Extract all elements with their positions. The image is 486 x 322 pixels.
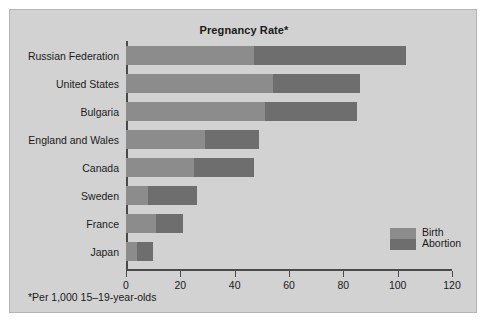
bar-segment-birth bbox=[126, 158, 194, 177]
x-tick-120 bbox=[452, 271, 453, 277]
category-label: France bbox=[86, 218, 119, 230]
bar-row: United States bbox=[126, 74, 452, 93]
bar-segment-birth bbox=[126, 74, 273, 93]
x-tick-60 bbox=[289, 271, 290, 277]
plot-area: 020406080100120 Russian FederationUnited… bbox=[126, 41, 468, 269]
x-tick-label-40: 40 bbox=[229, 279, 241, 291]
bar-segment-abortion bbox=[156, 214, 183, 233]
bar-segment-abortion bbox=[194, 158, 254, 177]
bar-segment-abortion bbox=[273, 74, 360, 93]
category-label: Bulgaria bbox=[80, 106, 119, 118]
x-tick-40 bbox=[235, 271, 236, 277]
category-label: Sweden bbox=[81, 190, 119, 202]
chart-legend: Birth Abortion bbox=[390, 228, 485, 250]
legend-swatch-abortion bbox=[390, 239, 416, 250]
x-tick-label-80: 80 bbox=[337, 279, 349, 291]
bar-segment-abortion bbox=[254, 46, 406, 65]
x-tick-label-100: 100 bbox=[389, 279, 407, 291]
x-tick-20 bbox=[180, 271, 181, 277]
x-tick-100 bbox=[398, 271, 399, 277]
bar-segment-birth bbox=[126, 186, 148, 205]
x-tick-label-60: 60 bbox=[283, 279, 295, 291]
x-tick-80 bbox=[343, 271, 344, 277]
category-label: Canada bbox=[82, 162, 119, 174]
bar-segment-birth bbox=[126, 214, 156, 233]
legend-swatch-birth bbox=[390, 228, 416, 239]
bar-segment-abortion bbox=[148, 186, 197, 205]
x-tick-label-0: 0 bbox=[123, 279, 129, 291]
bar-row: Canada bbox=[126, 158, 452, 177]
bar-segment-abortion bbox=[265, 102, 357, 121]
bar-row: England and Wales bbox=[126, 130, 452, 149]
bar-segment-abortion bbox=[205, 130, 259, 149]
chart-screenshot: Pregnancy Rate* 020406080100120 Russian … bbox=[0, 0, 486, 322]
category-label: Russian Federation bbox=[28, 50, 119, 62]
bar-row: Bulgaria bbox=[126, 102, 452, 121]
bar-row: Russian Federation bbox=[126, 46, 452, 65]
bar-segment-birth bbox=[126, 130, 205, 149]
x-tick-label-120: 120 bbox=[443, 279, 461, 291]
chart-footnote: *Per 1,000 15–19-year-olds bbox=[28, 291, 156, 303]
x-tick-label-20: 20 bbox=[174, 279, 186, 291]
bar-segment-birth bbox=[126, 102, 265, 121]
chart-title: Pregnancy Rate* bbox=[10, 24, 478, 36]
chart-panel: Pregnancy Rate* 020406080100120 Russian … bbox=[9, 9, 477, 313]
bar-segment-abortion bbox=[137, 242, 153, 261]
category-label: United States bbox=[56, 78, 119, 90]
bar-segment-birth bbox=[126, 46, 254, 65]
bar-segment-birth bbox=[126, 242, 137, 261]
x-tick-0 bbox=[126, 271, 127, 277]
legend-label-abortion: Abortion bbox=[422, 237, 461, 249]
category-label: Japan bbox=[90, 246, 119, 258]
bar-row: Sweden bbox=[126, 186, 452, 205]
category-label: England and Wales bbox=[28, 134, 119, 146]
legend-item-abortion: Abortion bbox=[390, 239, 485, 250]
